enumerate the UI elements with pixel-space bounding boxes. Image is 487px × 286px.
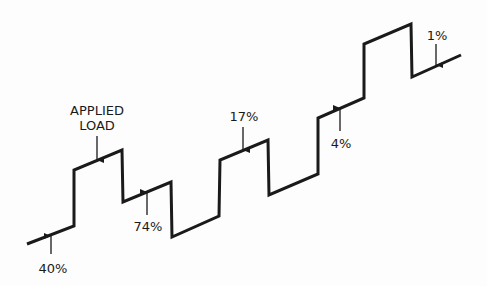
applied-load-label-line2: LOAD xyxy=(79,118,115,133)
percent-label-74: 74% xyxy=(134,219,163,234)
load-trace-diagram: APPLIED LOAD 40% 74% 17% 4% 1% xyxy=(0,0,487,286)
arrow-group xyxy=(51,44,436,254)
diagram-canvas: APPLIED LOAD 40% 74% 17% 4% 1% xyxy=(0,0,487,286)
percent-label-1: 1% xyxy=(427,28,448,43)
load-trace-line xyxy=(27,24,461,244)
percent-label-40: 40% xyxy=(39,261,68,276)
percent-label-4: 4% xyxy=(331,136,352,151)
applied-load-label-line1: APPLIED xyxy=(70,103,124,118)
percent-label-17: 17% xyxy=(230,109,259,124)
